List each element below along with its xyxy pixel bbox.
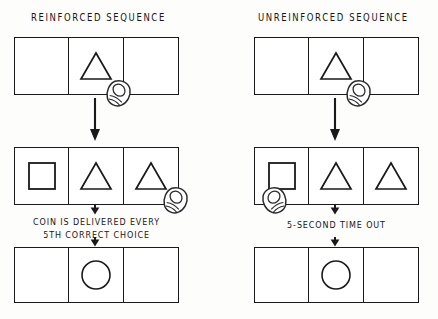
circle-shape-icon (80, 259, 112, 291)
down-arrow-icon (327, 98, 343, 142)
reinforced-row-3-cell-2[interactable] (69, 248, 123, 302)
unreinforced-row-2-cell-2[interactable] (309, 148, 363, 204)
reinforced-row-2-cell-2[interactable] (69, 148, 123, 204)
triangle-shape-icon (319, 51, 353, 81)
down-arrow-icon (88, 237, 102, 247)
pointing-hand-icon (338, 79, 380, 115)
triangle-shape-icon (374, 161, 408, 191)
reinforced-row-3-cell-1[interactable] (15, 248, 69, 302)
reinforced-row-1-panel (14, 37, 179, 95)
square-shape-icon (27, 161, 57, 191)
stimulus-sequence-diagram: REINFORCED SEQUENCE (0, 0, 438, 319)
unreinforced-row-3-cell-1[interactable] (255, 248, 309, 302)
unreinforced-row-1-panel (254, 37, 419, 95)
reinforced-row-1-cell-1[interactable] (15, 38, 69, 94)
reinforced-row-2-cell-1[interactable] (15, 148, 69, 204)
unreinforced-row-3-cell-2[interactable] (309, 248, 363, 302)
triangle-shape-icon (79, 161, 113, 191)
down-arrow-icon (328, 205, 342, 215)
circle-shape-icon (320, 259, 352, 291)
column-title-unreinforced: UNREINFORCED SEQUENCE (258, 12, 409, 24)
triangle-shape-icon (319, 161, 353, 191)
down-arrow-icon (87, 98, 103, 142)
column-title-reinforced: REINFORCED SEQUENCE (31, 12, 166, 24)
unreinforced-row-1-cell-1[interactable] (255, 38, 309, 94)
down-arrow-icon (328, 237, 342, 247)
pointing-hand-icon (253, 186, 295, 222)
pointing-hand-icon (98, 79, 140, 115)
down-arrow-icon (88, 205, 102, 215)
unreinforced-row-3-cell-3[interactable] (364, 248, 418, 302)
unreinforced-row-2-cell-3[interactable] (364, 148, 418, 204)
unreinforced-caption: 5-SECOND TIME OUT (254, 219, 419, 232)
reinforced-row-3-cell-3[interactable] (124, 248, 178, 302)
unreinforced-row-3-panel (254, 247, 419, 303)
triangle-shape-icon (79, 51, 113, 81)
reinforced-row-3-panel (14, 247, 179, 303)
